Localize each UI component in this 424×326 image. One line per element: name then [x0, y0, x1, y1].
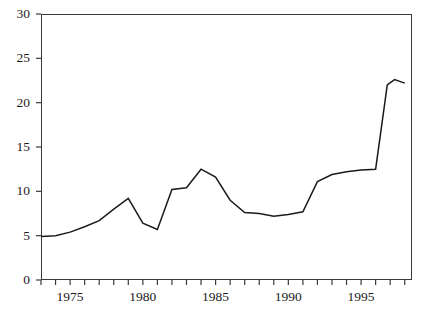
chart-svg-layer [0, 0, 424, 326]
y-axis-tick-marks [36, 14, 41, 280]
y-tick-label: 25 [2, 51, 30, 65]
y-tick-label: 0 [2, 273, 30, 287]
x-tick-label: 1985 [186, 290, 246, 304]
y-tick-label: 20 [2, 96, 30, 110]
line-chart: 051015202530 19751980198519901995 [0, 0, 424, 326]
y-tick-label: 15 [2, 140, 30, 154]
data-series-line [41, 80, 405, 237]
y-tick-label: 5 [2, 229, 30, 243]
x-tick-label: 1980 [113, 290, 173, 304]
x-tick-label: 1975 [40, 290, 100, 304]
x-tick-label: 1995 [331, 290, 391, 304]
y-tick-label: 10 [2, 184, 30, 198]
x-axis-tick-marks [41, 280, 405, 285]
x-tick-label: 1990 [258, 290, 318, 304]
y-tick-label: 30 [2, 7, 30, 21]
